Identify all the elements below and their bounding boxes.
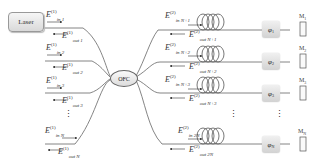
phase-shifter-2: φ2 bbox=[262, 53, 280, 70]
right-in-label-n: E(2)in 2N bbox=[178, 127, 200, 137]
ofc-label: OFC bbox=[118, 76, 130, 82]
left-ellipsis: ⋮ bbox=[64, 110, 73, 119]
right-out-label-2: E(2)out N+2 bbox=[189, 63, 217, 73]
right-out-label-n: E(2)out 2N bbox=[189, 146, 213, 156]
left-out-label-1: E(1)out 1 bbox=[62, 32, 83, 42]
right-out-label-1: E(2)out N+1 bbox=[189, 31, 217, 41]
left-out-label-2: E(1)out 2 bbox=[62, 64, 83, 74]
laser-label: Laser bbox=[18, 18, 34, 26]
left-out-label-3: E(1)out 3 bbox=[62, 97, 83, 107]
left-out-label-n: E(1)out N bbox=[58, 148, 80, 158]
right-in-label-3: E(2)in N+3 bbox=[165, 76, 190, 86]
right-in-label-2: E(2)in N+2 bbox=[165, 44, 190, 54]
laser-box: Laser bbox=[8, 12, 44, 32]
phase-ellipsis: ⋮ bbox=[275, 110, 284, 119]
mirror-label-n: MN bbox=[298, 128, 306, 136]
right-out-label-3: E(2)out N+3 bbox=[189, 95, 217, 105]
ofc-coupler: OFC bbox=[110, 70, 138, 87]
phase-shifter-n: φN bbox=[262, 136, 280, 153]
coil-ellipsis: ⋮ bbox=[229, 110, 238, 119]
phase-shifter-3: φ3 bbox=[262, 85, 280, 102]
mirror-label-3: M3 bbox=[299, 77, 306, 85]
mirror-label-1: M1 bbox=[299, 13, 306, 21]
left-in-label-2: E(1)in 2 bbox=[46, 44, 64, 54]
mirror-label-2: M2 bbox=[299, 45, 306, 53]
right-in-label-1: E(2)in N+1 bbox=[165, 12, 190, 22]
ofc-interferometer-diagram: Laser OFC E(1)in 1 E(1)out 1 E(1)in 2 E(… bbox=[0, 0, 322, 166]
left-in-label-n: E(1)in N bbox=[45, 127, 64, 137]
phase-shifter-1: φ1 bbox=[262, 21, 280, 38]
left-in-label-3: E(1)in 3 bbox=[46, 77, 64, 87]
left-in-label-1: E(1)in 1 bbox=[46, 11, 64, 21]
